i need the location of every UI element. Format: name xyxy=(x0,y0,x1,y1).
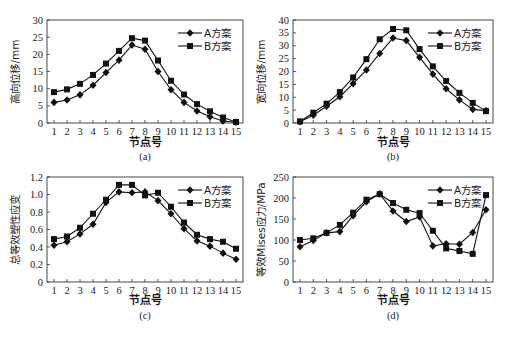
data-point xyxy=(390,200,396,206)
square-marker-icon xyxy=(437,200,443,206)
data-point xyxy=(403,27,409,33)
data-point xyxy=(181,92,187,98)
figure: 051015202530123456789101112131415节点号高向位移… xyxy=(0,0,507,339)
x-tick-label: 12 xyxy=(441,285,452,296)
data-point xyxy=(51,236,57,242)
chart-c: 00.20.40.60.81.01.2123456789101112131415… xyxy=(9,172,243,323)
y-tick-label: 0 xyxy=(38,277,43,288)
y-tick-label: 150 xyxy=(273,214,289,225)
legend: A方案B方案 xyxy=(178,184,232,209)
y-axis-label: 高向位移/mm xyxy=(9,40,21,104)
y-tick-label: 100 xyxy=(273,235,289,246)
panel-caption: (d) xyxy=(387,310,400,322)
x-tick-label: 3 xyxy=(324,126,329,137)
diamond-marker-icon xyxy=(437,29,444,37)
x-tick-label: 4 xyxy=(337,126,343,137)
data-point xyxy=(233,255,240,263)
x-tick-label: 11 xyxy=(179,126,189,137)
x-tick-label: 10 xyxy=(166,285,177,296)
data-point xyxy=(103,61,109,67)
data-point xyxy=(181,220,187,226)
y-tick-label: 200 xyxy=(273,193,289,204)
x-tick-label: 6 xyxy=(116,285,121,296)
square-marker-icon xyxy=(437,43,443,49)
x-tick-label: 6 xyxy=(364,285,369,296)
data-point xyxy=(142,45,149,53)
data-point xyxy=(443,245,449,251)
x-tick-label: 1 xyxy=(297,285,302,296)
x-tick-label: 12 xyxy=(192,126,203,137)
y-tick-label: 1.2 xyxy=(30,172,43,183)
data-point xyxy=(129,182,135,188)
y-tick-label: 35 xyxy=(279,27,290,38)
data-point xyxy=(363,56,369,62)
data-point xyxy=(51,99,58,107)
data-point xyxy=(129,189,136,197)
chart-d: 050100150200250123456789101112131415节点号等… xyxy=(255,172,493,323)
data-point xyxy=(51,241,58,249)
x-tick-label: 2 xyxy=(64,285,69,296)
y-tick-label: 10 xyxy=(33,83,44,94)
chart-b: 0510152025303540123456789101112131415节点号… xyxy=(255,15,493,164)
y-tick-label: 0 xyxy=(284,277,289,288)
diamond-marker-icon xyxy=(187,186,194,194)
data-point xyxy=(310,235,316,241)
data-point xyxy=(363,197,369,203)
data-point xyxy=(194,232,200,238)
y-tick-label: 1.0 xyxy=(30,189,43,200)
data-point xyxy=(429,242,436,250)
y-tick-label: 5 xyxy=(38,100,43,111)
x-tick-label: 4 xyxy=(90,285,96,296)
data-point xyxy=(350,210,356,216)
x-tick-label: 11 xyxy=(179,285,189,296)
legend-label: B方案 xyxy=(204,40,232,52)
x-tick-label: 3 xyxy=(77,126,82,137)
data-point xyxy=(456,90,462,96)
data-point xyxy=(77,81,83,87)
data-point xyxy=(207,242,214,250)
y-axis-label: 宽向位移/mm xyxy=(255,40,267,104)
data-point xyxy=(220,239,226,245)
x-tick-label: 15 xyxy=(481,126,492,137)
data-point xyxy=(417,210,423,216)
legend-label: B方案 xyxy=(454,197,482,209)
x-tick-label: 2 xyxy=(311,285,316,296)
x-tick-label: 15 xyxy=(231,126,242,137)
data-point xyxy=(77,230,84,238)
legend: A方案B方案 xyxy=(428,184,482,209)
legend-label: A方案 xyxy=(454,184,482,196)
x-tick-label: 1 xyxy=(51,126,56,137)
data-point xyxy=(194,101,200,107)
x-axis-label: 节点号 xyxy=(377,293,410,307)
data-point xyxy=(390,26,396,32)
x-tick-label: 10 xyxy=(414,285,425,296)
data-point xyxy=(220,249,227,257)
square-marker-icon xyxy=(187,200,193,206)
square-marker-icon xyxy=(187,43,193,49)
y-tick-label: 0.2 xyxy=(30,259,43,270)
data-point xyxy=(324,230,330,236)
x-tick-label: 3 xyxy=(324,285,329,296)
x-tick-label: 14 xyxy=(467,126,478,137)
data-point xyxy=(116,182,122,188)
x-tick-label: 12 xyxy=(192,285,203,296)
data-point xyxy=(207,108,213,114)
diamond-marker-icon xyxy=(437,186,444,194)
x-tick-label: 10 xyxy=(414,126,425,137)
x-tick-label: 14 xyxy=(467,285,478,296)
data-point xyxy=(377,191,383,197)
y-tick-label: 25 xyxy=(279,53,290,64)
data-point xyxy=(483,108,489,114)
x-tick-label: 13 xyxy=(454,126,465,137)
y-tick-label: 10 xyxy=(279,92,290,103)
y-tick-label: 25 xyxy=(33,32,44,43)
data-point xyxy=(77,91,84,99)
y-tick-label: 0 xyxy=(38,118,43,129)
data-point xyxy=(297,243,304,251)
x-tick-label: 5 xyxy=(351,285,356,296)
data-point xyxy=(103,197,109,203)
y-tick-label: 0 xyxy=(284,118,289,129)
legend: A方案B方案 xyxy=(428,27,482,52)
legend-label: A方案 xyxy=(454,27,482,39)
chart-a: 051015202530123456789101112131415节点号高向位移… xyxy=(9,15,243,164)
